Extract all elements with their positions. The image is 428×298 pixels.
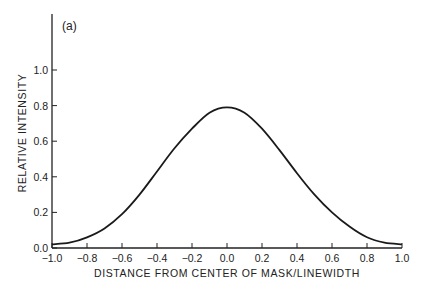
intensity-chart: −1.0−0.8−0.6−0.4−0.20.00.20.40.60.81.0 0… [0, 0, 428, 298]
y-axis-label: RELATIVE INTENSITY [16, 74, 28, 193]
y-tick-label: 0.6 [33, 135, 48, 147]
x-axis-label: DISTANCE FROM CENTER OF MASK/LINEWIDTH [94, 267, 360, 279]
x-tick-label: −0.2 [182, 252, 203, 264]
x-tick-label: 0.4 [290, 252, 305, 264]
x-tick-label: −0.8 [77, 252, 98, 264]
y-tick-label: 0.0 [33, 242, 48, 254]
axes [52, 14, 402, 248]
x-tick-label: 1.0 [395, 252, 410, 264]
intensity-curve [52, 107, 402, 244]
y-tick-label: 0.4 [33, 171, 48, 183]
x-tick-label: 0.8 [360, 252, 375, 264]
y-tick-label: 0.2 [33, 206, 48, 218]
x-tick-label: −0.4 [147, 252, 168, 264]
x-tick-label: −0.6 [112, 252, 133, 264]
x-tick-label: 0.6 [325, 252, 340, 264]
x-tick-label: 0.0 [220, 252, 235, 264]
y-tick-label: 0.8 [33, 100, 48, 112]
x-tick-label: 0.2 [255, 252, 270, 264]
panel-label: (a) [62, 19, 77, 33]
y-tick-label: 1.0 [33, 64, 48, 76]
x-axis-ticks: −1.0−0.8−0.6−0.4−0.20.00.20.40.60.81.0 [42, 243, 410, 264]
y-axis-ticks: 0.00.20.40.60.81.0 [33, 64, 57, 254]
